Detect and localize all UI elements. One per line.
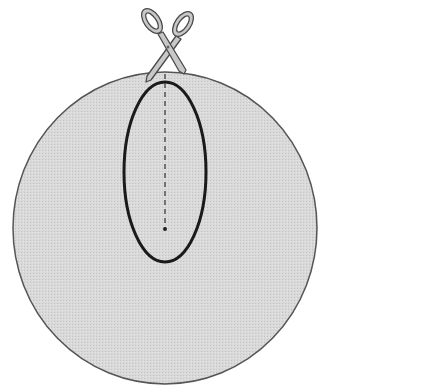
cut-end-dot [163, 227, 167, 231]
cut-circle-diagram [0, 0, 439, 392]
scissors-icon [137, 5, 197, 82]
diagram-canvas [0, 0, 439, 392]
